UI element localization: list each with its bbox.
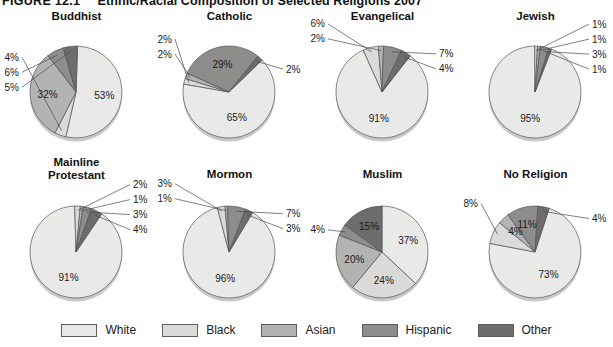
pie-graphic: 91%6%2%7%4% (306, 10, 459, 156)
legend-label: Black (206, 323, 235, 337)
pie-label-leader-line (175, 199, 227, 211)
pie-slice-label: 3% (158, 178, 173, 189)
pie-slice-label: 6% (5, 67, 20, 78)
pie-graphic: 65%29%2%2%2% (153, 10, 306, 156)
pie-slice-label: 1% (592, 19, 607, 30)
pie-slice-label: 5% (5, 82, 20, 93)
pie-chart-mainline-protestant: MainlineProtestant91%2%1%3%4% (0, 156, 153, 302)
legend-label: Other (522, 323, 552, 337)
pie-slice-label: 53% (94, 90, 114, 101)
pie-chart-catholic: Catholic65%29%2%2%2% (153, 10, 306, 156)
pie-slice-label: 20% (344, 254, 364, 265)
pie-slice-label: 29% (212, 59, 232, 70)
pie-slice-label: 6% (311, 18, 326, 29)
pie-slice-label: 73% (539, 269, 559, 280)
pie-slice-label: 1% (158, 193, 173, 204)
pie-slice-label: 7% (286, 208, 301, 219)
pie-slice-label: 3% (286, 223, 301, 234)
pie-label-leader-line (175, 184, 222, 211)
pie-slice-label: 2% (286, 64, 301, 75)
legend-swatch (162, 324, 198, 337)
pie-slice-label: 65% (227, 112, 247, 123)
pie-slice-label: 4% (311, 224, 326, 235)
pie-slice-label: 96% (215, 273, 235, 284)
pie-label-leader-line (481, 204, 498, 235)
pie-slice-label: 4% (5, 52, 20, 63)
pie-slice-label: 1% (133, 194, 148, 205)
pie-chart-grid: Buddhist53%32%4%6%5%Catholic65%29%2%2%2%… (0, 10, 613, 302)
legend-label: White (105, 323, 136, 337)
figure-number: FIGURE 12.1 (2, 0, 80, 8)
legend-label: Asian (305, 323, 335, 337)
pie-slice-label: 8% (464, 198, 479, 209)
pie-graphic: 91%2%1%3%4% (0, 156, 153, 302)
pie-slice-label: 4% (439, 63, 454, 74)
pie-graphic: 95%1%1%3%1% (459, 10, 612, 156)
pie-graphic: 53%32%4%6%5% (0, 10, 153, 156)
pie-slice-label: 3% (592, 49, 607, 60)
legend-label: Hispanic (406, 323, 452, 337)
pie-graphic: 96%3%1%7%3% (153, 156, 306, 302)
pie-slice-label: 2% (158, 49, 173, 60)
chart-legend: WhiteBlackAsianHispanicOther (0, 315, 613, 345)
pie-slice-label: 2% (133, 179, 148, 190)
pie-chart-evangelical: Evangelical91%6%2%7%4% (306, 10, 459, 156)
pie-slice-label: 1% (592, 34, 607, 45)
legend-item-white: White (61, 323, 136, 337)
pie-slice-label: 37% (398, 235, 418, 246)
legend-swatch (261, 324, 297, 337)
legend-item-black: Black (162, 323, 235, 337)
pie-slice-label: 4% (592, 213, 607, 224)
pie-graphic: 37%24%20%15%4% (306, 156, 459, 302)
pie-slice-label: 91% (369, 113, 389, 124)
pie-label-leader-line (77, 185, 130, 211)
figure-title: FIGURE 12.1 Ethnic/Racial Composition of… (2, 0, 611, 8)
pie-slice-label: 4% (133, 224, 148, 235)
pie-chart-mormon: Mormon96%3%1%7%3% (153, 156, 306, 302)
pie-graphic: 73%4%11%8%4% (459, 156, 612, 302)
pie-label-leader-line (328, 24, 372, 52)
pie-slice-label: 2% (311, 33, 326, 44)
legend-item-hispanic: Hispanic (362, 323, 452, 337)
pie-label-leader-line (536, 24, 589, 50)
pie-slice-label: 91% (59, 272, 79, 283)
pie-slice-label: 95% (520, 113, 540, 124)
pie-chart-buddhist: Buddhist53%32%4%6%5% (0, 10, 153, 156)
legend-swatch (478, 324, 514, 337)
pie-slice-label: 11% (517, 219, 536, 230)
pie-slice-label: 24% (374, 275, 394, 286)
legend-item-other: Other (478, 323, 552, 337)
pie-slice-label: 1% (592, 64, 607, 75)
pie-label-leader-line (539, 39, 589, 51)
legend-swatch (61, 324, 97, 337)
pie-slice-label: 15% (359, 221, 379, 232)
figure-title-text: Ethnic/Racial Composition of Selected Re… (97, 0, 422, 8)
pie-slice-label: 32% (38, 89, 58, 100)
legend-item-asian: Asian (261, 323, 335, 337)
pie-slice-label: 3% (133, 209, 148, 220)
pie-slice-label: 2% (158, 34, 173, 45)
pie-chart-no-religion: No Religion73%4%11%8%4% (459, 156, 612, 302)
pie-label-leader-line (175, 39, 189, 82)
pie-label-leader-line (175, 54, 190, 77)
pie-chart-muslim: Muslim37%24%20%15%4% (306, 156, 459, 302)
pie-chart-jewish: Jewish95%1%1%3%1% (459, 10, 612, 156)
legend-swatch (362, 324, 398, 337)
pie-slice-label: 7% (439, 48, 454, 59)
